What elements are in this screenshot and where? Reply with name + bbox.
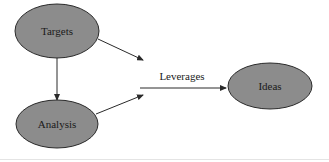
node-ideas: Ideas	[228, 63, 312, 109]
node-analysis: Analysis	[16, 100, 98, 148]
edge-targets-to-leverages	[98, 39, 143, 60]
bottom-divider	[0, 159, 329, 160]
edge-analysis-to-leverages	[96, 95, 143, 114]
diagram-canvas: Leverages Targets Analysis Ideas	[0, 0, 329, 162]
edge-label-leverages: Leverages	[159, 70, 204, 82]
node-analysis-label: Analysis	[38, 118, 77, 130]
node-ideas-label: Ideas	[258, 80, 281, 92]
node-targets-label: Targets	[41, 25, 73, 37]
node-targets: Targets	[15, 4, 99, 58]
